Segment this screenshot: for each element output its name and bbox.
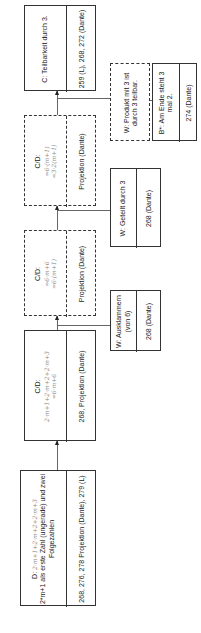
node-cd3: C/D: =6·(m+1) =3·2(m+1) Projektion (Dant…: [24, 115, 96, 206]
node-title: C/D:: [34, 267, 43, 281]
node-title: C/D:: [34, 380, 43, 394]
node-title: W: Geteilt durch 3: [111, 169, 137, 248]
connector-d-to-cd1: [57, 441, 58, 470]
connector-w1: [58, 325, 110, 326]
node-ref: 268 (Dante): [137, 291, 162, 352]
node-ref: 259 (L), 268, 272 (Dante): [67, 6, 97, 92]
side-node-w2: W: Geteilt durch 3 268 (Dante): [110, 168, 161, 247]
node-d: D: 2·m+1+2·m+2+2·m+3 2*m+1 als erste Zah…: [20, 470, 96, 606]
node-ref: 268, Projektion (Dante): [67, 331, 97, 442]
handwritten-formula: 2·m+1+2·m+2+2·m+3: [43, 351, 50, 422]
handwritten-formula: =6·(m+1): [50, 259, 57, 289]
handwritten-formula: =6·m+6: [43, 261, 50, 286]
connector-w3: [58, 98, 110, 99]
node-text: 2*m+1 als erste Zahl (ungerade) und zwei…: [39, 473, 56, 605]
node-ref: Projektion (Dante): [67, 116, 97, 207]
side-node-w3: W: Produkt mit 3 ist durch 3 teilbar.: [110, 63, 150, 141]
side-node-b1: B*: Am Ende steht 3 mal 2. 274 (Dante): [152, 63, 197, 141]
node-title: D:: [31, 572, 38, 579]
node-c: C: Teilbarkeit durch 3. 259 (L), 268, 27…: [24, 5, 96, 91]
node-ref: 268, 276, 278 Projektion (Dante), 279 (L…: [67, 471, 97, 607]
handwritten-formula: =6·m+6: [50, 374, 57, 399]
node-title: C: Teilbarkeit durch 3.: [25, 6, 67, 92]
node-title: B*: Am Ende steht 3 mal 2.: [153, 64, 180, 142]
side-node-w1: W: Ausklammern (von 6) 268 (Dante): [110, 290, 161, 351]
handwritten-formula: 2·m+1+2·m+2+2·m+3: [31, 499, 38, 570]
connector-w2: [58, 210, 110, 211]
node-cd2: C/D: =6·m+6 =6·(m+1) Projektion (Dante): [24, 230, 96, 316]
node-ref: 274 (Dante): [180, 64, 198, 142]
node-ref: 268 (Dante): [137, 169, 162, 248]
node-cd1: C/D: 2·m+1+2·m+2+2·m+3 =6·m+6 268, Proje…: [24, 330, 96, 441]
node-title: W: Ausklammern (von 6): [111, 291, 137, 352]
node-title: W: Produkt mit 3 ist durch 3 teilbar.: [111, 64, 151, 142]
handwritten-formula: =3·2(m+1): [50, 145, 57, 179]
node-ref: Projektion (Dante): [67, 231, 97, 317]
node-title: C/D:: [34, 155, 43, 169]
handwritten-formula: =6·(m+1): [43, 147, 50, 177]
